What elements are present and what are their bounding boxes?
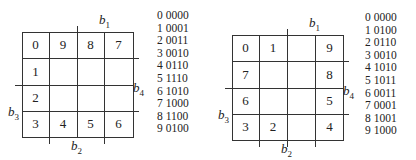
code-row: 6 0011	[365, 87, 397, 100]
cell: 8	[315, 61, 344, 88]
code-row: 2 0110	[365, 36, 397, 49]
right-diagram: 0 1 9 7 8 6 5 3 2 4 b1 b2 b3 b4 0 0000 1…	[0, 0, 416, 160]
code-row: 7 0001	[365, 99, 397, 112]
cell: 5	[315, 88, 344, 114]
cell: 9	[315, 35, 344, 61]
code-row: 0 0000	[365, 11, 397, 24]
cell: 3	[232, 114, 259, 140]
code-row: 1 0100	[365, 24, 397, 37]
cell: 4	[315, 114, 344, 140]
cell: 0	[232, 35, 259, 61]
cell: 7	[232, 61, 259, 88]
code-row: 3 0010	[365, 49, 397, 62]
cell: 2	[259, 114, 287, 140]
label-b1: b1	[309, 15, 320, 33]
code-row: 8 1001	[365, 112, 397, 125]
label-b3: b3	[218, 107, 229, 125]
cell: 6	[232, 88, 259, 114]
label-b2: b2	[281, 141, 292, 159]
code-row: 9 1000	[365, 124, 397, 137]
code-row: 4 1010	[365, 61, 397, 74]
right-code-table: 0 0000 1 0100 2 0110 3 0010 4 1010 5 101…	[365, 11, 397, 137]
code-row: 5 1011	[365, 74, 397, 87]
cell: 1	[259, 35, 287, 61]
label-b4: b4	[343, 83, 354, 101]
